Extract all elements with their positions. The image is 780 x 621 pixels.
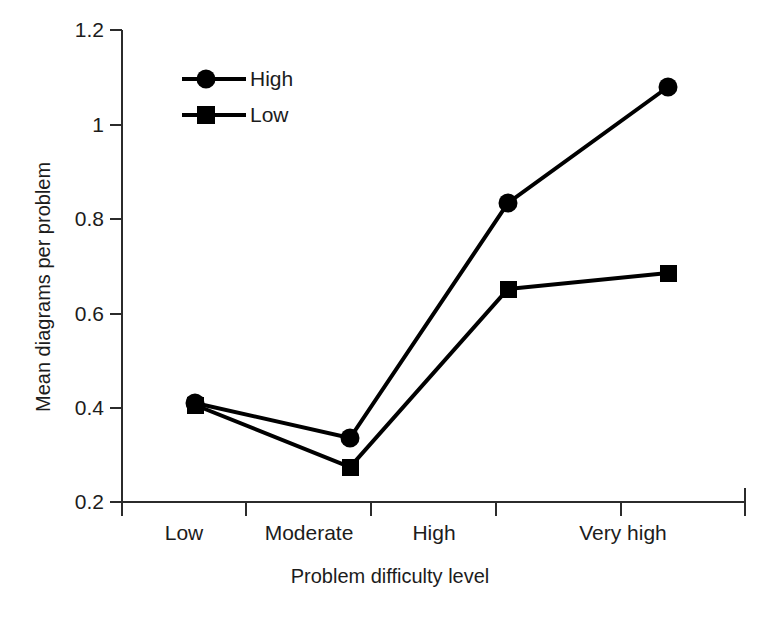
legend-label-low: Low <box>250 103 289 127</box>
x-tick-label-very-high: Very high <box>563 521 683 545</box>
legend-circle-icon <box>197 70 216 89</box>
data-point-marker <box>659 78 678 97</box>
y-tick-label-0_2: 0.2 <box>44 490 104 514</box>
y-axis-ticks <box>110 30 122 502</box>
series-high <box>186 78 678 448</box>
x-axis-ticks <box>122 502 745 516</box>
data-point-marker <box>186 394 205 413</box>
legend-markers <box>182 70 246 125</box>
y-tick-label-1_2: 1.2 <box>44 18 104 42</box>
data-point-marker <box>341 429 360 448</box>
legend-square-icon <box>197 106 215 124</box>
data-point-marker <box>500 281 517 298</box>
chart-figure: 1.2 1 0.8 0.6 0.4 0.2 Low Moderate High … <box>0 0 780 621</box>
y-tick-label-1: 1 <box>44 113 104 137</box>
x-axis-title: Problem difficulty level <box>0 565 780 588</box>
x-tick-label-high: High <box>374 521 494 545</box>
data-point-marker <box>499 194 518 213</box>
series-low <box>187 265 677 476</box>
data-point-marker <box>660 265 677 282</box>
x-tick-label-moderate: Moderate <box>249 521 369 545</box>
legend-label-high: High <box>250 67 293 91</box>
y-axis-title: Mean diagrams per problem <box>32 162 55 412</box>
data-point-marker <box>342 459 359 476</box>
x-tick-label-low: Low <box>124 521 244 545</box>
